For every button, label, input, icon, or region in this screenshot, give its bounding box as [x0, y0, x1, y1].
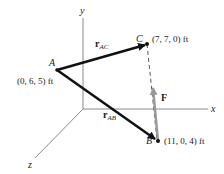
vector-r-ac-sub: AC — [98, 43, 108, 51]
point-b — [156, 139, 160, 143]
point-c-label: C — [136, 33, 143, 44]
force-vector-f — [153, 88, 158, 141]
z-axis — [35, 109, 83, 158]
point-a-label: A — [48, 57, 56, 68]
point-a — [55, 68, 59, 72]
point-c-coords: (7, 7, 0) ft — [152, 34, 189, 44]
force-f-label: F — [161, 92, 167, 103]
point-a-coords: (0, 6, 5) ft — [17, 76, 54, 86]
point-c — [145, 42, 149, 46]
x-axis-label: x — [210, 103, 216, 114]
vector-r-ac-label: rAC — [95, 38, 109, 51]
vector-r-ab — [57, 70, 155, 139]
z-axis-label: z — [27, 159, 32, 170]
point-b-coords: (11, 0, 4) ft — [164, 136, 205, 146]
vector-r-ab-sub: AB — [106, 114, 116, 122]
point-b-label: B — [146, 135, 152, 146]
y-axis-label: y — [79, 5, 85, 16]
vector-diagram: y x z A (0, 6, 5) ft C (7, 7, 0) ft B (1… — [0, 0, 224, 174]
